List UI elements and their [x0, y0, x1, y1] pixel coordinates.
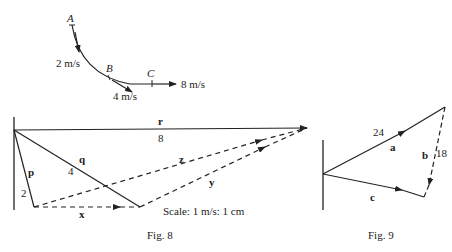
velocity-arrow-A: [75, 32, 79, 52]
curved-path-figure: [69, 25, 176, 92]
velocity-A-label: 2 m/s: [56, 58, 80, 69]
velocity-C-label: 8 m/s: [181, 79, 205, 90]
scale-label: Scale: 1 m/s: 1 cm: [163, 206, 244, 217]
vector-b-label: b: [422, 150, 428, 161]
point-A-label: A: [67, 13, 74, 24]
vector-a-label: a: [390, 142, 396, 153]
point-C-label: C: [147, 68, 154, 79]
vector-r: [14, 128, 307, 130]
vector-z-label: z: [179, 154, 184, 165]
vector-c-label: c: [370, 192, 375, 203]
path-curve: [72, 25, 152, 84]
vector-q-magnitude: 4: [68, 166, 74, 177]
vector-c: [323, 174, 402, 190]
fig8-caption: Fig. 8: [147, 230, 173, 241]
vector-b: [429, 107, 445, 185]
vector-r-label: r: [158, 116, 163, 127]
point-B-label: B: [106, 63, 113, 74]
velocity-B-label: 4 m/s: [113, 91, 137, 102]
fig8-vector-diagram: [14, 117, 307, 210]
vector-y: [140, 147, 265, 207]
vector-a-magnitude: 24: [373, 127, 384, 138]
fig9-caption: Fig. 9: [368, 230, 394, 241]
vector-y-label: y: [209, 177, 215, 188]
vector-b-magnitude: 18: [436, 148, 447, 159]
vector-p-magnitude: 2: [21, 188, 27, 199]
vector-r-magnitude: 8: [158, 133, 164, 144]
vector-x-label: x: [79, 209, 85, 220]
vector-p-label: p: [28, 167, 34, 178]
vector-q-label: q: [79, 154, 85, 165]
